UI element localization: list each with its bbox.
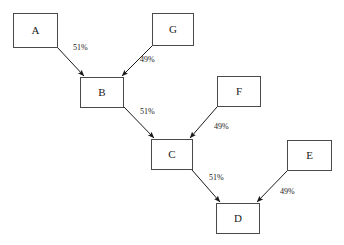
edge-label-b-to-c: 51% (140, 108, 155, 116)
node-label-b: B (98, 87, 105, 98)
node-f[interactable]: F (217, 76, 261, 107)
edge-label-a-to-b: 51% (73, 44, 88, 52)
node-label-f: F (236, 86, 242, 97)
edge-label-e-to-d: 49% (280, 188, 295, 196)
edge-label-f-to-c: 49% (214, 123, 229, 131)
edge-f-to-c (190, 107, 217, 138)
edges-group (57, 46, 287, 202)
node-g[interactable]: G (152, 13, 194, 46)
node-label-e: E (306, 150, 313, 161)
diagram-canvas: AGBFCED 51%49%51%49%51%49% (0, 0, 344, 245)
node-e[interactable]: E (287, 140, 332, 171)
edge-label-c-to-d: 51% (209, 174, 224, 182)
node-label-d: D (234, 213, 242, 224)
node-c[interactable]: C (151, 139, 193, 170)
node-label-c: C (168, 149, 175, 160)
node-d[interactable]: D (216, 203, 260, 234)
node-b[interactable]: B (80, 77, 124, 108)
node-label-g: G (169, 24, 177, 35)
edge-label-g-to-b: 49% (140, 56, 155, 64)
node-label-a: A (32, 25, 40, 36)
node-a[interactable]: A (13, 13, 58, 48)
